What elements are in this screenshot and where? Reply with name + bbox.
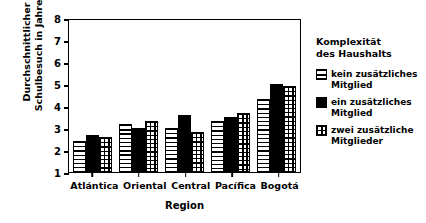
- y-axis-tick-label: 4: [54, 103, 64, 113]
- legend-swatch-hlines-icon: [316, 69, 327, 80]
- legend-label-2-line2: Mitglieder: [331, 136, 414, 147]
- legend-title-line2: des Haushalts: [316, 48, 426, 60]
- x-axis-tick-mark: [185, 172, 187, 177]
- x-axis-tick-label: Oriental: [123, 180, 166, 191]
- legend-item-1: ein zusätzliches Mitglied: [316, 97, 426, 118]
- y-axis-tick-mark: [64, 107, 69, 109]
- x-axis-tick-mark: [138, 172, 140, 177]
- bar: [211, 121, 224, 172]
- bar: [145, 121, 158, 172]
- bar: [191, 132, 204, 172]
- legend: Komplexität des Haushalts kein zusätzlic…: [316, 36, 426, 153]
- bar-group: [257, 20, 296, 172]
- y-axis-tick-mark: [64, 129, 69, 131]
- bar: [237, 113, 250, 172]
- y-axis-tick-mark: [64, 85, 69, 87]
- y-axis-tick: 2: [54, 147, 69, 157]
- x-axis-labels: AtlánticaOrientalCentralPacíficaBogotá: [68, 180, 301, 194]
- legend-title-line1: Komplexität: [316, 36, 426, 48]
- bar: [86, 135, 99, 172]
- bar-groups: [69, 20, 300, 172]
- y-axis-title-line2: Schulbesuch in Jahren: [33, 0, 45, 137]
- y-axis-tick: 8: [54, 15, 69, 25]
- y-axis-tick-label: 6: [54, 59, 64, 69]
- legend-swatch-grid-icon: [316, 125, 327, 136]
- bar: [270, 84, 283, 172]
- x-axis-tick-label: Central: [171, 180, 210, 191]
- chart-figure: Durchschnittlicher Schulbesuch in Jahren…: [0, 0, 426, 223]
- legend-label-2-line1: zwei zusätzliche: [331, 125, 414, 136]
- y-axis-tick-label: 3: [54, 125, 64, 135]
- y-axis-tick-label: 2: [54, 147, 64, 157]
- bar-group: [119, 20, 158, 172]
- bar: [119, 124, 132, 172]
- y-axis-tick-mark: [64, 19, 69, 21]
- bar: [99, 137, 112, 172]
- legend-label-1-line2: Mitglied: [331, 108, 412, 119]
- bar-group: [73, 20, 112, 172]
- bar-group: [211, 20, 250, 172]
- bar: [224, 117, 237, 172]
- y-axis-tick-mark: [64, 41, 69, 43]
- y-axis-tick-label: 5: [54, 81, 64, 91]
- y-axis-tick-label: 8: [54, 15, 64, 25]
- y-axis-tick-label: 7: [54, 37, 64, 47]
- legend-item-2: zwei zusätzliche Mitglieder: [316, 125, 426, 146]
- y-axis-tick: 6: [54, 59, 69, 69]
- plot-area: 12345678: [68, 19, 301, 173]
- legend-label-1: ein zusätzliches Mitglied: [327, 97, 412, 118]
- x-axis-tick-label: Atlántica: [70, 180, 118, 191]
- legend-label-0-line1: kein zusätzliches: [331, 69, 417, 80]
- y-axis-tick: 7: [54, 37, 69, 47]
- legend-title: Komplexität des Haushalts: [316, 36, 426, 60]
- y-axis-tick-mark: [64, 63, 69, 65]
- x-axis-tick-mark: [92, 172, 94, 177]
- y-axis-title-line1: Durchschnittlicher: [21, 0, 33, 137]
- bar-group: [165, 20, 204, 172]
- y-axis-tick-mark: [64, 151, 69, 153]
- legend-label-2: zwei zusätzliche Mitglieder: [327, 125, 414, 146]
- y-axis-tick-mark: [64, 173, 69, 175]
- bar: [178, 115, 191, 172]
- bar: [257, 99, 270, 172]
- x-axis-tick-label: Pacífica: [215, 180, 256, 191]
- legend-label-1-line1: ein zusätzliches: [331, 97, 412, 108]
- x-axis-title: Region: [68, 200, 301, 211]
- legend-swatch-solid-icon: [316, 97, 327, 108]
- legend-item-0: kein zusätzliches Mitglied: [316, 69, 426, 90]
- bar: [73, 141, 86, 172]
- legend-label-0-line2: Mitglied: [331, 80, 417, 91]
- y-axis-tick: 1: [54, 169, 69, 179]
- x-axis-tick-mark: [231, 172, 233, 177]
- bar: [132, 128, 145, 172]
- bar: [165, 128, 178, 172]
- y-axis-tick: 3: [54, 125, 69, 135]
- legend-label-0: kein zusätzliches Mitglied: [327, 69, 417, 90]
- y-axis-tick: 4: [54, 103, 69, 113]
- bar: [283, 86, 296, 172]
- x-axis-tick-mark: [278, 172, 280, 177]
- y-axis-tick: 5: [54, 81, 69, 91]
- x-axis-tick-label: Bogotá: [261, 180, 299, 191]
- y-axis-title: Durchschnittlicher Schulbesuch in Jahren: [21, 0, 45, 137]
- y-axis-tick-label: 1: [54, 169, 64, 179]
